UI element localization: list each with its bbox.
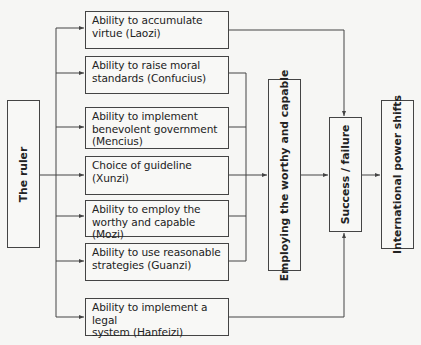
employing-label: Employing the worthy and capable [278,69,291,281]
factor-box-guanzi: Ability to use reasonable strategies (Gu… [85,243,229,281]
factor-box-xunzi: Choice of guideline (Xunzi) [85,156,229,195]
factor-box-hanfeizi: Ability to implement a legal system (Han… [85,298,229,336]
outcome-label: International power shifts [391,95,404,254]
flow-diagram: The ruler Ability to accumulate virtue (… [0,0,421,345]
ruler-label: The ruler [17,146,30,202]
employing-box: Employing the worthy and capable [268,79,301,271]
factor-box-confucius: Ability to raise moral standards (Confuc… [85,56,229,94]
ruler-box: The ruler [7,100,40,248]
outcome-box: International power shifts [381,100,414,249]
success-failure-label: Success / failure [339,125,352,225]
success-failure-box: Success / failure [329,117,362,232]
factor-box-mencius: Ability to implement benevolent governme… [85,107,229,149]
factor-box-mozi: Ability to employ the worthy and capable… [85,200,229,237]
factor-box-laozi: Ability to accumulate virtue (Laozi) [85,11,229,49]
